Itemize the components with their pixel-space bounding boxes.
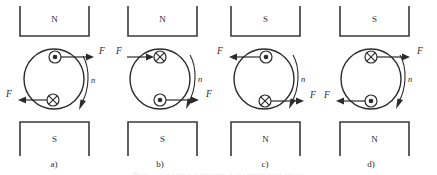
- panel-caption: c): [262, 159, 269, 169]
- top-force-label: F: [98, 46, 105, 56]
- bottom-pole-label: S: [52, 134, 57, 144]
- bottom-force-arrow: [18, 97, 47, 104]
- top-pole-label: N: [159, 14, 166, 24]
- panel-caption: d): [367, 159, 375, 169]
- top-force-label: F: [416, 46, 423, 56]
- bottom-conductor: [259, 95, 271, 107]
- panel-d: S N F F: [317, 0, 426, 175]
- top-conductor: [154, 51, 166, 63]
- top-pole-label: N: [51, 14, 58, 24]
- bottom-conductor: [154, 94, 166, 106]
- bottom-force-label: F: [323, 90, 330, 100]
- bottom-pole-label: S: [160, 134, 165, 144]
- bottom-force-arrow: [336, 98, 365, 105]
- bottom-force-label: F: [309, 90, 316, 100]
- top-conductor: [260, 51, 272, 63]
- top-force-label: F: [115, 46, 122, 56]
- panel-c: S N F F: [211, 0, 320, 175]
- rotation-label: n: [91, 75, 95, 85]
- physics-figure: N S F F: [0, 0, 437, 175]
- panel-b: N S F F: [106, 0, 215, 175]
- panel-a: N S F F: [0, 0, 109, 175]
- rotation-label: n: [408, 74, 412, 84]
- rotation-label: n: [198, 74, 202, 84]
- top-conductor: [365, 51, 377, 63]
- bottom-force-label: F: [5, 89, 12, 99]
- top-force-label: F: [216, 46, 223, 56]
- panel-caption: a): [51, 159, 58, 169]
- bottom-force-arrow: [166, 97, 199, 104]
- top-force-arrow: [127, 54, 154, 61]
- panel-caption: b): [156, 159, 164, 169]
- rotation-label: n: [301, 74, 305, 84]
- top-conductor: [49, 51, 61, 63]
- bottom-conductor: [47, 94, 59, 106]
- bottom-pole-label: N: [371, 134, 378, 144]
- figure-caption-partial: Рис. — рамка с током в магнитном поле: [0, 170, 437, 175]
- top-pole-label: S: [372, 14, 377, 24]
- bottom-conductor: [365, 95, 377, 107]
- bottom-pole-label: N: [262, 134, 269, 144]
- top-pole-label: S: [263, 14, 268, 24]
- top-force-arrow: [229, 54, 260, 61]
